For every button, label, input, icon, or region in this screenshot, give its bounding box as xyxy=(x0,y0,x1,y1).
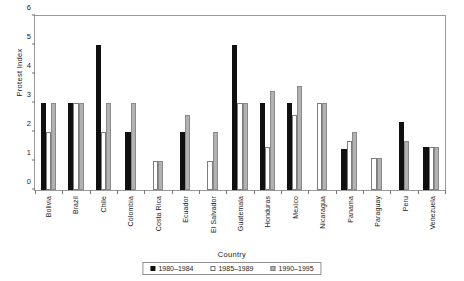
x-tick-label: Ecuador xyxy=(182,196,189,223)
y-tick-label: 6 xyxy=(27,3,31,12)
x-label-cell: Mexico xyxy=(281,196,308,252)
chart-legend: 1980–19841985–19891990–1995 xyxy=(142,262,321,275)
x-tick-label: El Salvador xyxy=(209,196,216,233)
bar xyxy=(106,103,111,190)
bar xyxy=(213,132,218,190)
x-label-cell: Bolivia xyxy=(34,196,61,252)
bar-group xyxy=(390,16,417,190)
bar xyxy=(185,115,190,190)
legend-label: 1985–1989 xyxy=(218,265,253,272)
x-tick-mark xyxy=(199,190,200,194)
y-tick-label: 0 xyxy=(27,177,31,186)
x-tick-mark xyxy=(418,190,419,194)
bar-group xyxy=(363,16,390,190)
x-tick-label: Paraguay xyxy=(374,196,381,227)
bar-group xyxy=(308,16,335,190)
x-tick-mark xyxy=(336,190,337,194)
legend-label: 1980–1984 xyxy=(158,265,193,272)
x-label-cell: Costa Rica xyxy=(144,196,171,252)
x-label-cell: Chile xyxy=(89,196,116,252)
bar-group xyxy=(90,16,117,190)
plot-inner: 0123456 xyxy=(35,16,445,190)
x-label-cell: Brazil xyxy=(61,196,88,252)
x-tick-mark xyxy=(281,190,282,194)
x-label-cell: Panama xyxy=(336,196,363,252)
x-label-cell: Colombia xyxy=(116,196,143,252)
bar xyxy=(297,86,302,190)
legend-swatch xyxy=(210,266,215,271)
x-label-cell: El Salvador xyxy=(199,196,226,252)
x-tick-mark xyxy=(390,190,391,194)
bar-group xyxy=(418,16,445,190)
y-tick-label: 1 xyxy=(27,148,31,157)
y-tick-label: 2 xyxy=(27,119,31,128)
bar xyxy=(79,103,84,190)
x-tick-mark xyxy=(35,190,36,194)
protest-index-bar-chart: Protest Index 0123456 BoliviaBrazilChile… xyxy=(0,0,464,281)
bar-group xyxy=(281,16,308,190)
legend-item: 1980–1984 xyxy=(150,265,193,272)
x-axis-labels: BoliviaBrazilChileColombiaCosta RicaEcua… xyxy=(34,196,446,252)
x-tick-mark xyxy=(363,190,364,194)
bar-group xyxy=(172,16,199,190)
y-axis-title: Protest Index xyxy=(15,28,24,118)
bar-group xyxy=(35,16,62,190)
x-tick-label: Peru xyxy=(401,196,408,211)
bar xyxy=(51,103,56,190)
bar-group xyxy=(199,16,226,190)
legend-item: 1990–1995 xyxy=(271,265,314,272)
x-tick-label: Chile xyxy=(99,196,106,212)
x-tick-mark xyxy=(445,190,446,194)
x-tick-mark xyxy=(117,190,118,194)
x-tick-label: Colombia xyxy=(127,196,134,226)
y-tick-label: 4 xyxy=(27,61,31,70)
x-tick-mark xyxy=(226,190,227,194)
x-tick-mark xyxy=(62,190,63,194)
bar-group xyxy=(117,16,144,190)
x-tick-label: Mexico xyxy=(291,196,298,219)
x-label-cell: Nicaragua xyxy=(309,196,336,252)
bar xyxy=(352,132,357,190)
x-label-cell: Honduras xyxy=(254,196,281,252)
x-tick-label: Nicaragua xyxy=(319,196,326,229)
legend-swatch xyxy=(271,266,276,271)
x-tick-mark xyxy=(90,190,91,194)
x-tick-label: Honduras xyxy=(264,196,271,227)
bar xyxy=(377,158,382,190)
x-label-cell: Ecuador xyxy=(171,196,198,252)
x-tick-mark xyxy=(172,190,173,194)
bar xyxy=(270,91,275,190)
x-label-cell: Guatemala xyxy=(226,196,253,252)
bar-groups xyxy=(35,16,445,190)
x-tick-label: Venezuela xyxy=(429,196,436,230)
bar xyxy=(404,141,409,190)
bar xyxy=(158,161,163,190)
bar-group xyxy=(144,16,171,190)
x-tick-label: Costa Rica xyxy=(154,196,161,231)
bar xyxy=(243,103,248,190)
x-tick-mark xyxy=(254,190,255,194)
x-label-cell: Peru xyxy=(391,196,418,252)
bar xyxy=(322,103,327,190)
x-label-cell: Venezuela xyxy=(419,196,446,252)
legend-swatch xyxy=(150,266,155,271)
x-tick-mark xyxy=(308,190,309,194)
bar xyxy=(434,147,439,191)
x-tick-label: Brazil xyxy=(72,196,79,214)
bar-group xyxy=(254,16,281,190)
x-label-cell: Paraguay xyxy=(364,196,391,252)
legend-label: 1990–1995 xyxy=(279,265,314,272)
x-tick-label: Bolivia xyxy=(44,196,51,217)
bar-group xyxy=(62,16,89,190)
legend-item: 1985–1989 xyxy=(210,265,253,272)
y-tick-label: 3 xyxy=(27,90,31,99)
x-tick-mark xyxy=(144,190,145,194)
x-tick-label: Guatemala xyxy=(237,196,244,231)
bar-group xyxy=(336,16,363,190)
x-tick-label: Panama xyxy=(346,196,353,223)
y-tick-label: 5 xyxy=(27,32,31,41)
x-axis-title: Country xyxy=(0,250,464,259)
bar xyxy=(131,103,136,190)
bar-group xyxy=(226,16,253,190)
plot-area: 0123456 xyxy=(34,15,446,191)
